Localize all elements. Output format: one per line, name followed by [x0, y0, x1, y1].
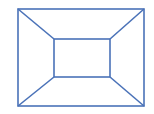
top-right-diagonal	[110, 9, 144, 39]
bottom-right-diagonal	[110, 77, 144, 106]
bottom-left-diagonal	[18, 77, 54, 106]
inner-rectangle	[54, 39, 110, 77]
top-left-diagonal	[18, 9, 54, 39]
perspective-box-diagram	[0, 0, 154, 114]
